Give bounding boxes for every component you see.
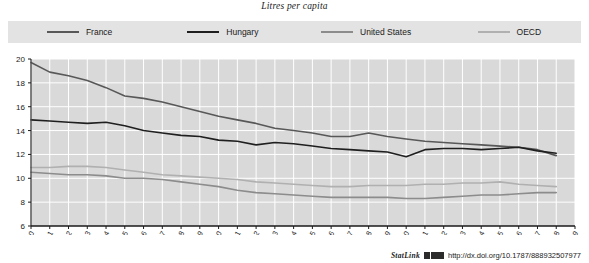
x-axis-tick-label: 1991 [227,230,243,236]
statlink-arrow-icon [424,252,444,259]
x-axis-tick-label: 2004 [470,230,486,236]
x-axis-tick-label: 2000 [395,230,411,236]
y-axis-tick-label: 20 [16,55,25,64]
x-axis-tick-label: 2005 [489,230,505,236]
statlink-label: StatLink [391,251,420,260]
x-axis-tick-label: 2007 [527,230,543,236]
legend-label-united-states: United States [360,27,411,37]
legend-item-united-states[interactable]: United States [295,27,438,37]
y-axis-tick-label: 14 [16,127,25,136]
statlink-url[interactable]: http://dx.doi.org/10.1787/888932507977 [448,251,581,260]
legend-swatch-hungary [187,31,219,33]
legend-label-france: France [86,27,112,37]
y-axis-tick-label: 8 [21,198,26,207]
y-axis-tick-label: 18 [16,79,25,88]
line-chart-svg: 68101214161820 1980198119821983198419851… [0,50,589,235]
x-axis-tick-label: 1990 [208,230,224,236]
x-axis-tick-label: 1989 [189,230,205,236]
legend-label-oecd: OECD [517,27,542,37]
chart-page: Litres per capita France Hungary United … [0,0,589,263]
plot-background [31,59,575,226]
legend-item-france[interactable]: France [8,27,151,37]
x-axis-tick-label: 1985 [114,230,130,236]
chart-legend: France Hungary United States OECD [8,21,581,43]
x-axis-tick-label: 1999 [377,230,393,236]
x-axis-ticks: 1980198119821983198419851986198719881989… [20,226,580,235]
statlink-footer: StatLink http://dx.doi.org/10.1787/88893… [391,251,581,260]
x-axis-tick-label: 1983 [76,230,92,236]
legend-swatch-oecd [478,31,510,33]
x-axis-tick-label: 2003 [452,230,468,236]
page-title: Litres per capita [0,1,589,11]
x-axis-tick-label: 1981 [39,230,55,236]
x-axis-tick-label: 2008 [545,230,561,236]
x-axis-tick-label: 1993 [264,230,280,236]
legend-swatch-united-states [321,31,353,33]
x-axis-tick-label: 1995 [302,230,318,236]
y-axis-tick-label: 12 [16,150,25,159]
y-axis-tick-label: 16 [16,103,25,112]
x-axis-tick-label: 1984 [95,230,111,236]
plot-area: 68101214161820 1980198119821983198419851… [0,50,589,235]
x-axis-tick-label: 2002 [433,230,449,236]
x-axis-tick-label: 2009 [564,230,580,236]
x-axis-tick-label: 1982 [58,230,74,236]
y-axis-ticks: 68101214161820 [16,55,31,231]
legend-item-hungary[interactable]: Hungary [151,27,294,37]
x-axis-tick-label: 2006 [508,230,524,236]
y-axis-tick-label: 6 [21,222,26,231]
x-axis-tick-label: 1992 [245,230,261,236]
x-axis-tick-label: 1986 [133,230,149,236]
x-axis-tick-label: 2001 [414,230,430,236]
y-axis-tick-label: 10 [16,174,25,183]
x-axis-tick-label: 1996 [320,230,336,236]
legend-item-oecd[interactable]: OECD [438,27,581,37]
x-axis-tick-label: 1994 [283,230,299,236]
legend-swatch-france [47,31,79,33]
x-axis-tick-label: 1988 [170,230,186,236]
x-axis-tick-label: 1997 [339,230,355,236]
legend-label-hungary: Hungary [226,27,258,37]
x-axis-tick-label: 1987 [152,230,168,236]
x-axis-tick-label: 1998 [358,230,374,236]
